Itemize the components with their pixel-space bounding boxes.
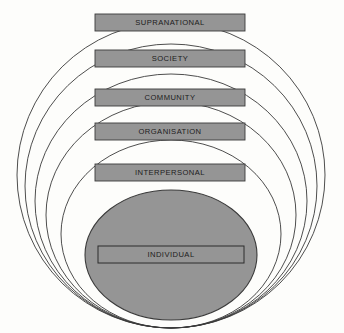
level-label-supranational: SUPRANATIONAL: [135, 18, 204, 27]
level-box-group-organisation: ORGANISATION: [95, 123, 245, 140]
level-box-group-interpersonal: INTERPERSONAL: [95, 164, 245, 181]
level-label-interpersonal: INTERPERSONAL: [135, 168, 205, 177]
level-box-group-community: COMMUNITY: [95, 89, 245, 106]
nested-levels-chart: SUPRANATIONAL SOCIETY COMMUNITY ORGANISA…: [0, 0, 344, 333]
level-label-society: SOCIETY: [152, 54, 188, 63]
level-box-group-society: SOCIETY: [95, 50, 245, 67]
level-label-individual: INDIVIDUAL: [147, 250, 194, 259]
level-label-community: COMMUNITY: [145, 93, 196, 102]
level-box-group-supranational: SUPRANATIONAL: [95, 14, 245, 31]
socio-ecological-diagram: SUPRANATIONAL SOCIETY COMMUNITY ORGANISA…: [0, 0, 344, 333]
level-label-organisation: ORGANISATION: [138, 127, 201, 136]
